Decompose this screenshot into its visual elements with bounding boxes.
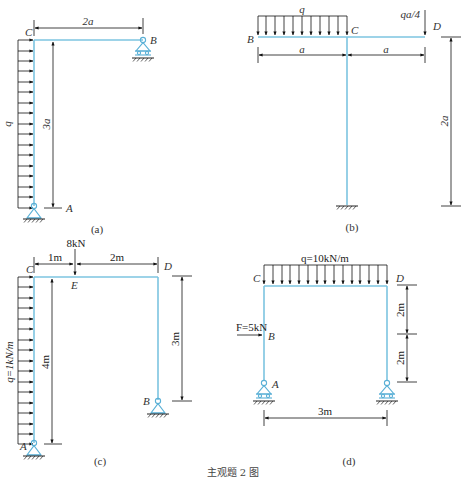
load-label-q: q=10kN/m — [301, 252, 349, 264]
dimension-2m-2m — [397, 285, 417, 382]
node-label-a: A — [271, 378, 279, 390]
distributed-load-q — [258, 16, 347, 35]
load-label-q: q — [1, 121, 13, 127]
panel-a: q 2a 3a C B A (a) — [1, 15, 157, 236]
node-label-c: C — [351, 24, 359, 36]
node-label-b: B — [143, 395, 150, 407]
panel-caption-c: (c) — [94, 455, 107, 468]
dim-label-3m: 3m — [169, 332, 181, 347]
node-label-d: D — [432, 20, 441, 32]
panel-c: q=1kN/m 8kN 1m 2m 4m 3m C E D — [3, 237, 192, 468]
dim-label-3m: 3m — [318, 405, 333, 417]
dim-label-a-left: a — [299, 43, 305, 55]
dim-label-3a: 3a — [40, 118, 52, 131]
node-label-a: A — [19, 440, 27, 452]
dimension-a-a — [258, 47, 425, 63]
structural-diagrams: q 2a 3a C B A (a) — [0, 0, 466, 480]
panel-d: q=10kN/m F=5kN 2m 2m 3m C D B A (d) — [236, 252, 417, 468]
node-label-c: C — [25, 26, 33, 38]
load-label-q-text: q=1kN/m — [3, 341, 15, 383]
load-label-q: q=1kN/m — [3, 341, 15, 383]
roller-support-d — [376, 380, 398, 404]
node-label-e: E — [70, 279, 78, 291]
load-label-q: q — [299, 3, 305, 15]
dim-label-upper-2m: 2m — [394, 303, 406, 318]
node-label-d: D — [163, 260, 172, 272]
dim-label-2a: 2a — [438, 115, 450, 127]
node-label-d: D — [395, 272, 404, 284]
fixed-support — [336, 206, 358, 210]
dim-label-1m: 1m — [48, 251, 63, 263]
panel-caption-b: (b) — [346, 221, 359, 234]
distributed-load-q — [264, 265, 387, 284]
panel-caption-d: (d) — [343, 455, 356, 468]
node-label-a: A — [65, 202, 73, 214]
node-label-b: B — [268, 330, 275, 342]
node-label-c: C — [253, 272, 261, 284]
dim-label-4m: 4m — [39, 355, 51, 370]
distributed-load-q — [18, 277, 33, 444]
panel-caption-a: (a) — [91, 223, 104, 236]
dim-label-2m: 2m — [110, 251, 125, 263]
dim-label-lower-2m: 2m — [394, 351, 406, 366]
dim-label-a-right: a — [383, 43, 389, 55]
distributed-load-q — [18, 40, 33, 208]
node-label-b: B — [247, 33, 254, 45]
point-load-label: 8kN — [67, 237, 86, 249]
pin-support-a — [23, 203, 45, 222]
point-load-label: qa/4 — [400, 8, 420, 20]
pin-support-b — [147, 398, 169, 417]
point-load-label: F=5kN — [236, 321, 267, 333]
node-label-b: B — [150, 34, 157, 46]
figure-caption: 主观题 2 图 — [207, 467, 260, 478]
node-label-c: C — [26, 263, 34, 275]
panel-b: q qa/4 a a 2a B C D (b) — [247, 3, 461, 234]
dim-label-2a: 2a — [83, 15, 95, 27]
